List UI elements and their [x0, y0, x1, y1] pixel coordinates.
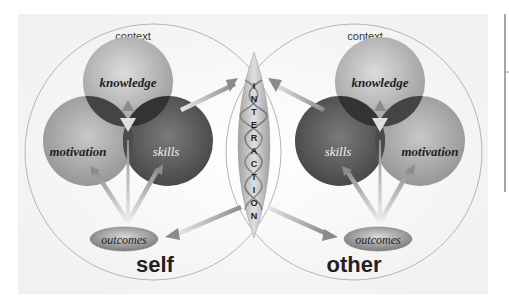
interaction-letter: A	[251, 146, 258, 156]
interaction-letter: N	[251, 94, 258, 104]
interaction-letter: R	[251, 133, 258, 143]
interaction-letter: I	[253, 81, 256, 91]
knowledge-label-self: knowledge	[99, 75, 156, 90]
outcomes-label-self: outcomes	[101, 233, 147, 247]
motivation-label-self: motivation	[49, 144, 106, 159]
self-other-interaction-diagram: context context knowledge motivation ski…	[0, 0, 509, 298]
title-self: self	[136, 252, 175, 277]
skills-label-other: skills	[325, 144, 352, 159]
interaction-letter: T	[251, 172, 257, 182]
outcomes-label-other: outcomes	[355, 233, 401, 247]
interaction-letter: O	[250, 198, 257, 208]
page-edge-rule	[505, 14, 509, 192]
interaction-letter: I	[253, 185, 256, 195]
interaction-letter: T	[251, 107, 257, 117]
interaction-letter: C	[251, 159, 258, 169]
skills-label-self: skills	[153, 144, 180, 159]
interaction-letter: N	[251, 211, 258, 221]
interaction-letters: I N T E R A C T I O N	[250, 81, 257, 221]
motivation-label-other: motivation	[401, 144, 458, 159]
interaction-letter: E	[251, 120, 257, 130]
knowledge-label-other: knowledge	[351, 75, 408, 90]
title-other: other	[327, 252, 382, 277]
